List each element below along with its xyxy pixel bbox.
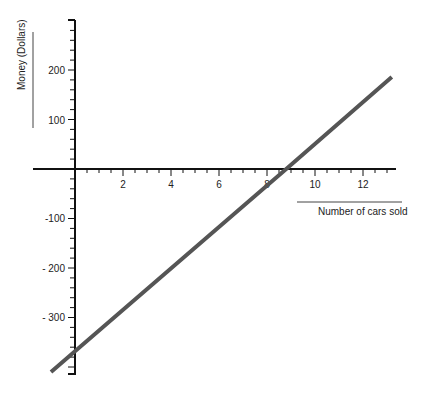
y-tick-label: 100 xyxy=(48,115,65,126)
y-tick-label: - 200 xyxy=(42,263,65,274)
x-axis-title: Number of cars sold xyxy=(318,206,407,217)
y-tick-label: -100 xyxy=(45,213,65,224)
x-tick-labels: 2 4 6 8 10 12 xyxy=(120,179,369,190)
y-tick-label: - 300 xyxy=(42,312,65,323)
money-line xyxy=(51,77,392,372)
y-axis xyxy=(68,20,75,375)
x-tick-label: 6 xyxy=(216,179,222,190)
x-tick-label: 10 xyxy=(309,179,321,190)
y-axis-title: Money (Dollars) xyxy=(16,19,27,90)
x-tick-label: 4 xyxy=(168,179,174,190)
y-tick-labels: 200 100 -100 - 200 - 300 xyxy=(42,65,65,323)
x-tick-label: 2 xyxy=(120,179,126,190)
x-tick-label: 12 xyxy=(357,179,369,190)
x-axis xyxy=(33,169,396,176)
y-tick-label: 200 xyxy=(48,65,65,76)
chart: Money (Dollars) Number of cars sold 200 … xyxy=(0,0,421,395)
